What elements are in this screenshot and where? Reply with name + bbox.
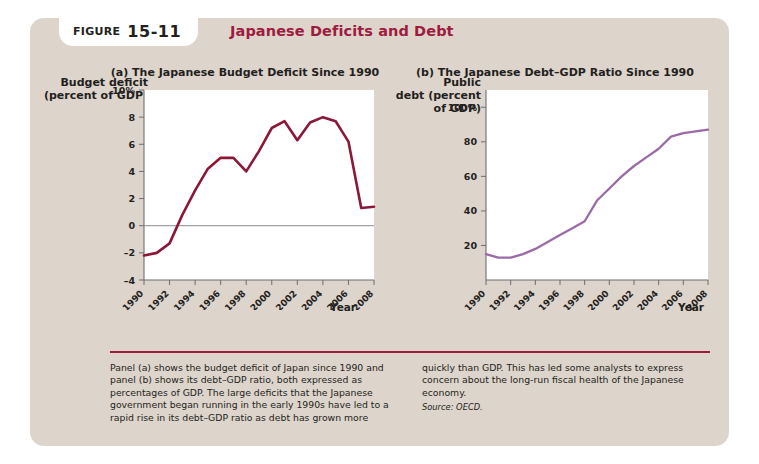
x-tick-label: 1994	[172, 288, 197, 310]
y-tick-label: 10%	[112, 85, 135, 96]
figure-title: Japanese Deficits and Debt	[230, 23, 454, 39]
x-tick-label: 1990	[463, 288, 488, 310]
x-tick-label: 2000	[248, 288, 273, 310]
x-tick-label: 1996	[197, 288, 222, 310]
plot-area	[486, 90, 708, 280]
y-tick-label: 4	[128, 166, 135, 177]
x-tick-label: 1992	[487, 288, 512, 310]
x-tick-label: 2002	[274, 288, 299, 310]
x-tick-label: 2002	[611, 288, 636, 310]
panel-a-chart: –4–20246810%1990199219941996199820002002…	[86, 80, 406, 310]
figure-badge-number: 15-11	[127, 22, 181, 41]
caption-source: Source: OECD.	[422, 401, 716, 413]
caption-right-text: quickly than GDP. This has led some anal…	[422, 362, 684, 398]
y-tick-label: 20	[464, 240, 478, 251]
y-tick-label: 40	[464, 205, 478, 216]
y-tick-label: 2	[128, 193, 135, 204]
caption-right: quickly than GDP. This has led some anal…	[422, 362, 716, 414]
x-tick-label: 1998	[561, 288, 586, 310]
x-tick-label: 2000	[586, 288, 611, 310]
x-tick-label: 1996	[537, 288, 562, 310]
figure-badge-label: FIGURE	[73, 25, 120, 38]
y-tick-label: 60	[464, 171, 478, 182]
x-tick-label: 2008	[351, 288, 376, 310]
figure-card: FIGURE 15-11 Japanese Deficits and Debt …	[30, 18, 729, 446]
x-tick-label: 2006	[325, 288, 350, 310]
x-tick-label: 1990	[121, 288, 146, 310]
x-tick-label: 1994	[512, 288, 537, 310]
x-tick-label: 2006	[660, 288, 685, 310]
panel-b-chart: 20406080100%1990199219941996199820002002…	[430, 80, 730, 310]
x-tick-label: 2008	[685, 288, 710, 310]
y-tick-label: 80	[464, 136, 478, 147]
y-tick-label: 0	[128, 220, 135, 231]
caption-left: Panel (a) shows the budget deficit of Ja…	[110, 362, 404, 424]
y-tick-label: –4	[124, 275, 136, 286]
y-tick-label: 6	[128, 139, 135, 150]
y-tick-label: 8	[128, 112, 135, 123]
x-tick-label: 1998	[223, 288, 248, 310]
figure-badge: FIGURE 15-11	[59, 17, 198, 46]
x-tick-label: 1992	[146, 288, 171, 310]
plot-area	[144, 90, 374, 280]
x-tick-label: 2004	[300, 288, 325, 310]
y-tick-label: –2	[124, 247, 135, 258]
x-tick-label: 2004	[635, 288, 660, 310]
y-tick-label: 100%	[448, 102, 478, 113]
caption-divider	[110, 351, 710, 353]
